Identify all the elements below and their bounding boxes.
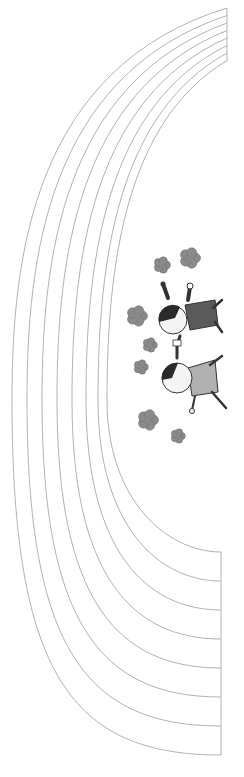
flower-icon bbox=[171, 429, 185, 443]
children-holding-hands bbox=[159, 282, 226, 414]
rainbow-arc bbox=[42, 23, 227, 697]
rainbow-arc bbox=[57, 31, 227, 669]
flower-icon bbox=[154, 257, 170, 273]
flower-icon bbox=[139, 410, 159, 430]
boy-figure bbox=[162, 340, 226, 414]
rainbow-illustration bbox=[0, 0, 244, 777]
rainbow-arc bbox=[86, 46, 227, 611]
flower-icon bbox=[128, 306, 148, 326]
rainbow-coloring-page bbox=[0, 0, 244, 777]
flower-icon bbox=[181, 248, 201, 268]
flower-icon bbox=[143, 338, 157, 352]
flower-icon bbox=[134, 360, 148, 374]
flowers-group bbox=[128, 248, 201, 443]
girl-figure bbox=[159, 282, 222, 346]
